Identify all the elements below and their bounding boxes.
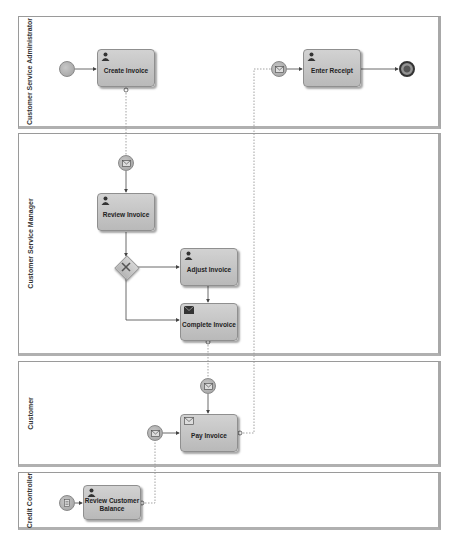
envelope-icon [151,430,160,437]
task-label: Enter Receipt [311,61,353,75]
lane-header: Customer [19,362,41,464]
start-event[interactable] [59,61,75,77]
task-complete-invoice[interactable]: Complete Invoice [180,303,238,341]
message-catch-event[interactable] [118,155,134,171]
task-create-invoice[interactable]: Create Invoice [97,49,155,87]
lane-label: Credit Controller [27,472,34,528]
user-icon [101,52,110,61]
task-label: Adjust Invoice [187,260,231,274]
lane-header: Customer Service Manager [19,134,41,353]
lane-label: Customer [27,397,34,430]
user-icon [101,196,110,205]
task-review-customer-balance[interactable]: Review Customer Balance [83,485,141,520]
lane-label: Customer Service Manager [27,198,34,288]
envelope-icon [184,306,194,314]
lane-header: Credit Controller [19,473,41,527]
envelope-icon [275,66,284,73]
task-label: Review Invoice [103,205,150,219]
message-start-event[interactable] [147,425,163,441]
lane-header: Customer Service Administrator [19,17,41,126]
task-label: Pay Invoice [191,426,227,440]
message-catch-event[interactable] [200,378,216,394]
envelope-icon [122,160,131,167]
task-label: Create Invoice [104,61,148,75]
task-pay-invoice[interactable]: Pay Invoice [180,414,238,452]
conditional-start-event[interactable] [59,495,75,511]
lane-customer-service-administrator: Customer Service Administrator [18,16,441,129]
document-icon [64,499,70,507]
user-icon [87,488,96,497]
lane-credit-controller: Credit Controller [18,472,441,530]
end-event[interactable] [399,61,415,77]
task-review-invoice[interactable]: Review Invoice [97,193,155,231]
envelope-icon [184,417,194,425]
x-icon [121,262,131,272]
task-adjust-invoice[interactable]: Adjust Invoice [180,248,238,286]
task-enter-receipt[interactable]: Enter Receipt [303,49,361,87]
user-icon [184,251,193,260]
lane-label: Customer Service Administrator [27,18,34,125]
task-label: Complete Invoice [182,315,236,329]
envelope-icon [204,383,213,390]
user-icon [307,52,316,61]
message-catch-event[interactable] [271,61,287,77]
